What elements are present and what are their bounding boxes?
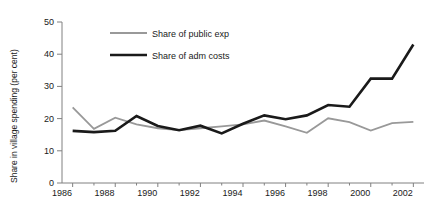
legend-label-share-of-public-exp: Share of public exp [152,29,229,39]
x-tick-label: 1998 [308,188,328,198]
y-tick-label: 30 [44,81,54,91]
x-tick-label: 1986 [52,188,72,198]
x-tick-label: 1990 [137,188,157,198]
y-axis [57,22,62,183]
chart-legend: Share of public exp Share of adm costs [110,29,230,61]
y-tick-label: 10 [44,146,54,156]
y-tick-label: 40 [44,49,54,59]
y-tick-label: 0 [49,178,54,188]
legend-label-share-of-adm-costs: Share of adm costs [152,51,230,61]
x-tick-label: 1994 [222,188,242,198]
y-tick-label: 20 [44,114,54,124]
y-tick-label: 50 [44,17,54,27]
x-tick-label: 1996 [265,188,285,198]
x-tick-label: 1992 [180,188,200,198]
x-axis-ticks [73,183,414,187]
x-tick-label: 2002 [393,188,413,198]
x-tick-label: 2000 [350,188,370,198]
y-axis-tick-labels: 50 40 30 20 10 0 [44,17,54,188]
series-line-share-of-public-exp [73,107,414,132]
y-axis-title: Share in village spending (per cent) [9,49,19,183]
line-chart: Share in village spending (per cent) 50 … [0,0,434,218]
chart-figure: Share in village spending (per cent) 50 … [0,0,434,218]
x-axis-tick-labels: 1986 1988 1990 1992 1994 1996 1998 2000 … [52,188,413,198]
x-tick-label: 1988 [95,188,115,198]
